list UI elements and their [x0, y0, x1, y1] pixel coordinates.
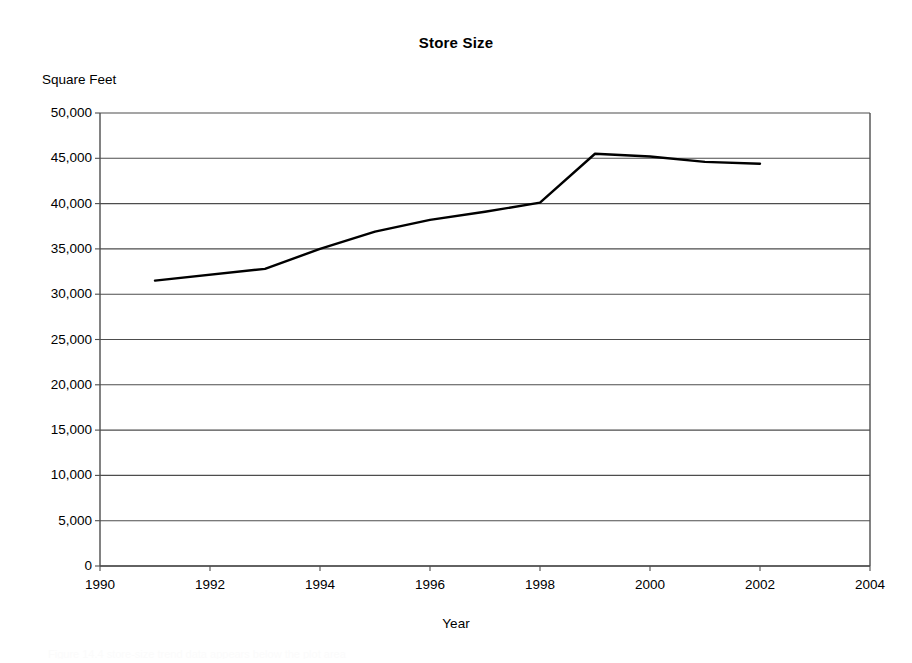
y-tick-label: 25,000 — [0, 333, 92, 347]
x-axis-title: Year — [0, 616, 912, 631]
x-tick-label: 1996 — [390, 578, 470, 592]
x-tick-label: 2004 — [830, 578, 910, 592]
chart-container: Store Size Square Feet 05,00010,00015,00… — [0, 0, 912, 663]
x-tick-label: 2002 — [720, 578, 800, 592]
y-tick-label: 10,000 — [0, 468, 92, 482]
y-tick-label: 50,000 — [0, 106, 92, 120]
y-tick-label: 15,000 — [0, 423, 92, 437]
bottom-faint-text: Figure 14.4 store-size trend data appear… — [48, 648, 748, 659]
y-tick-label: 0 — [0, 559, 92, 573]
x-tick-label: 1994 — [280, 578, 360, 592]
y-tick-label: 5,000 — [0, 514, 92, 528]
y-tick-label: 20,000 — [0, 378, 92, 392]
x-tick-label: 2000 — [610, 578, 690, 592]
y-tick-label: 40,000 — [0, 197, 92, 211]
plot-area — [0, 0, 912, 663]
x-tick-label: 1992 — [170, 578, 250, 592]
y-tick-label: 45,000 — [0, 151, 92, 165]
data-series-line — [155, 154, 760, 281]
y-tick-label: 30,000 — [0, 287, 92, 301]
x-tick-label: 1998 — [500, 578, 580, 592]
y-tick-label: 35,000 — [0, 242, 92, 256]
x-tick-label: 1990 — [60, 578, 140, 592]
